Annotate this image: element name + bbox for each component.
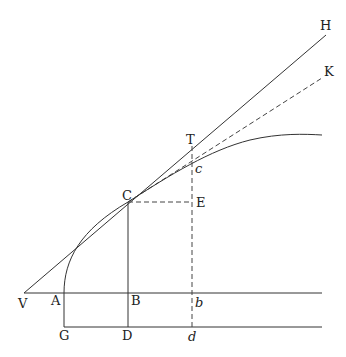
label-B: B	[131, 293, 141, 308]
diagram-svg: H K T c C E V A B b G D d	[0, 0, 346, 357]
label-T: T	[186, 132, 195, 147]
label-H: H	[320, 18, 331, 33]
label-K: K	[324, 64, 334, 79]
geometry-diagram: H K T c C E V A B b G D d	[0, 0, 346, 357]
label-C: C	[122, 188, 132, 203]
label-c: c	[195, 161, 203, 176]
label-E: E	[196, 195, 206, 210]
label-V: V	[17, 296, 28, 311]
label-D: D	[122, 328, 132, 343]
tangent-line-VH	[24, 35, 326, 293]
label-b: b	[195, 295, 203, 310]
label-G: G	[59, 328, 69, 343]
curve-AC	[64, 134, 322, 293]
label-d: d	[188, 329, 196, 344]
label-A: A	[50, 293, 61, 308]
